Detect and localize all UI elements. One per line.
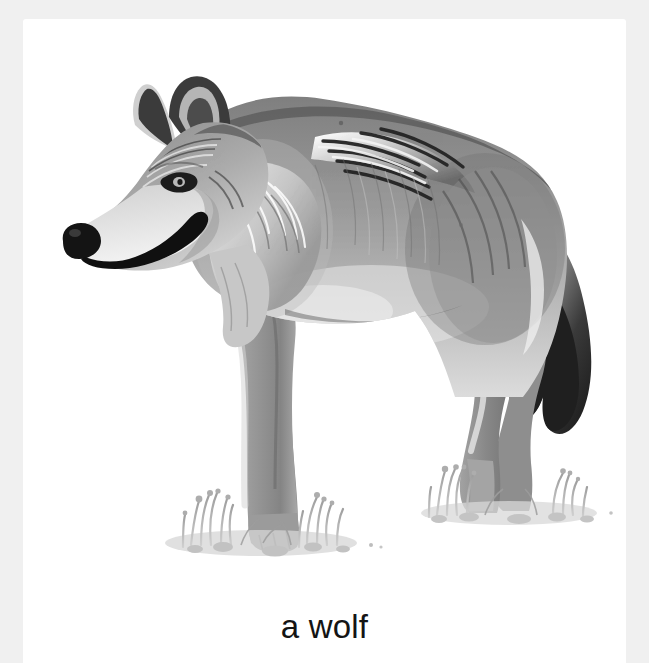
flashcard[interactable]: a wolf bbox=[23, 19, 626, 663]
flashcard-frame: a wolf bbox=[0, 0, 649, 663]
caption-label: a wolf bbox=[23, 607, 626, 647]
wolf-illustration-svg bbox=[23, 19, 626, 579]
wolf-illustration bbox=[23, 19, 626, 579]
